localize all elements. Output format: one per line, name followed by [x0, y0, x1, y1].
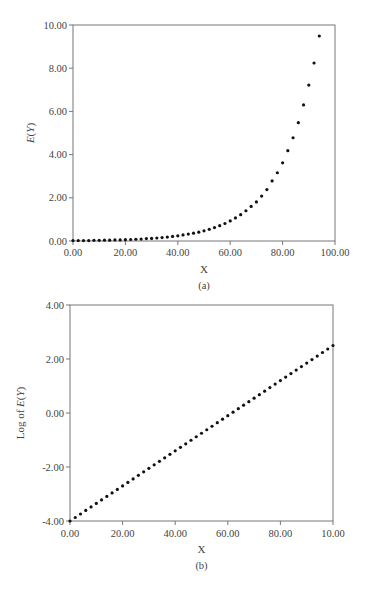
data-point: [284, 375, 287, 378]
data-point: [181, 233, 184, 236]
x-axis-title: X: [198, 543, 206, 555]
data-point: [147, 467, 150, 470]
y-axis-title: Log of E(Y): [14, 386, 27, 439]
data-point: [253, 397, 256, 400]
data-point: [150, 237, 153, 240]
data-point: [213, 226, 216, 229]
y-axis-title: E(Y): [24, 123, 37, 145]
data-point: [279, 379, 282, 382]
chart-panel-b: -4.00-2.000.002.004.000.0020.0040.0060.0…: [14, 300, 345, 573]
data-point: [110, 491, 113, 494]
data-point: [231, 411, 234, 414]
data-point: [326, 347, 329, 350]
y-tick-label: 2.00: [46, 354, 64, 365]
data-point: [289, 372, 292, 375]
data-point: [79, 512, 82, 515]
data-point: [271, 179, 274, 182]
data-point: [71, 239, 74, 242]
data-point: [174, 449, 177, 452]
data-point: [316, 354, 319, 357]
data-point: [153, 463, 156, 466]
data-point: [265, 188, 268, 191]
data-point: [202, 229, 205, 232]
y-tick-label: 2.00: [49, 192, 67, 203]
data-point: [318, 34, 321, 37]
plot-frame: [73, 25, 335, 241]
data-point: [331, 344, 334, 347]
data-point: [108, 239, 111, 242]
chart-panel-a: 0.002.004.006.008.0010.000.0020.0040.006…: [24, 20, 349, 293]
data-point: [176, 234, 179, 237]
y-tick-label: 8.00: [49, 63, 67, 74]
data-point: [129, 238, 132, 241]
data-point: [95, 502, 98, 505]
data-point: [124, 238, 127, 241]
data-point: [140, 237, 143, 240]
data-point: [312, 61, 315, 64]
data-point: [205, 428, 208, 431]
x-axis-title: X: [200, 263, 208, 275]
x-tick-label: 10.00: [321, 528, 345, 539]
data-point: [286, 149, 289, 152]
data-point: [305, 361, 308, 364]
data-point: [295, 368, 298, 371]
data-point: [210, 425, 213, 428]
data-point: [250, 205, 253, 208]
data-point: [226, 414, 229, 417]
data-point: [84, 509, 87, 512]
data-point: [239, 213, 242, 216]
data-point: [100, 498, 103, 501]
data-point: [121, 484, 124, 487]
y-tick-label: 4.00: [49, 149, 67, 160]
y-tick-label: 0.00: [49, 236, 67, 247]
data-point: [291, 136, 294, 139]
data-point: [74, 516, 77, 519]
data-point: [92, 239, 95, 242]
data-point: [200, 432, 203, 435]
data-point: [244, 209, 247, 212]
data-point: [166, 236, 169, 239]
data-point: [116, 488, 119, 491]
data-point: [263, 390, 266, 393]
x-tick-label: 0.00: [64, 247, 82, 258]
data-point: [158, 460, 161, 463]
data-point: [255, 200, 258, 203]
data-point: [142, 470, 145, 473]
data-point: [300, 365, 303, 368]
data-point: [302, 103, 305, 106]
data-point: [189, 439, 192, 442]
y-tick-label: 4.00: [46, 300, 64, 311]
data-point: [87, 239, 90, 242]
data-point: [237, 407, 240, 410]
data-point: [103, 239, 106, 242]
y-tick-label: -4.00: [42, 516, 64, 527]
panel-caption: (a): [198, 280, 210, 292]
x-tick-label: 40.00: [166, 247, 190, 258]
data-point: [132, 477, 135, 480]
data-point: [119, 238, 122, 241]
y-tick-label: 0.00: [46, 408, 64, 419]
x-tick-label: 20.00: [111, 528, 135, 539]
data-point: [68, 519, 71, 522]
x-tick-label: 60.00: [218, 247, 242, 258]
data-point: [229, 219, 232, 222]
x-tick-label: 20.00: [114, 247, 138, 258]
x-tick-label: 100.00: [321, 247, 350, 258]
data-point: [258, 393, 261, 396]
data-point: [98, 239, 101, 242]
data-point: [268, 386, 271, 389]
data-point: [82, 239, 85, 242]
plot-frame: [70, 305, 333, 521]
data-point: [145, 237, 148, 240]
data-point: [163, 456, 166, 459]
x-tick-label: 60.00: [216, 528, 240, 539]
data-point: [223, 222, 226, 225]
y-tick-label: 10.00: [43, 20, 67, 31]
data-point: [168, 453, 171, 456]
y-tick-label: -2.00: [42, 462, 64, 473]
data-point: [192, 232, 195, 235]
data-point: [321, 351, 324, 354]
x-tick-label: 0.00: [61, 528, 79, 539]
data-point: [234, 216, 237, 219]
x-tick-label: 80.00: [271, 247, 295, 258]
